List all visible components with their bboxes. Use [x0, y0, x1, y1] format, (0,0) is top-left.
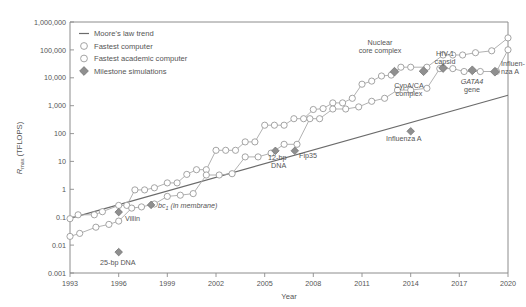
y-axis-title-unit: (TFLOPS) — [15, 121, 24, 158]
annotation-hiv-1-capsid-line2: capsid — [435, 57, 456, 66]
x-tick-2005: 2005 — [257, 279, 273, 288]
y-tick-1000: 1,000 — [48, 101, 66, 110]
x-tick-labels: 1993 1996 1999 2002 2005 2008 2011 2014 … — [62, 279, 516, 288]
annotation-cypa-ca-complex-line2: complex — [396, 89, 423, 98]
annotation-villin: Villin — [125, 214, 140, 223]
y-axis-title: Rmax (TFLOPS) — [15, 121, 25, 174]
x-axis-title: Year — [281, 292, 297, 301]
y-tick-0.1: 0.1 — [56, 213, 66, 222]
annotation-bc1-in-membrane: bc1 (in membrane) — [158, 201, 217, 211]
moores-law-trend-line — [70, 95, 508, 218]
y-tick-100: 100 — [54, 129, 66, 138]
fastest-academic-computer-line — [70, 50, 508, 237]
svg-text:Rmax (TFLOPS): Rmax (TFLOPS) — [15, 121, 25, 174]
legend-marker-fastest-academic-computer — [81, 55, 88, 62]
annotation-gata4-gene-line2: gene — [464, 85, 480, 94]
annotation-influenza-a-right-line2: nza A — [501, 67, 519, 76]
x-tick-2011: 2011 — [354, 279, 369, 288]
y-tick-1000000: 1,000,000 — [34, 18, 66, 27]
y-tick-labels: 1,000,000 100,000 10,000 1,000 100 10 1 … — [34, 18, 66, 278]
chart-figure: 1,000,000 100,000 10,000 1,000 100 10 1 … — [0, 0, 526, 307]
annotation-fip35: Fip35 — [299, 151, 317, 160]
legend-label-fastest-computer: Fastest computer — [94, 42, 153, 51]
x-tick-2002: 2002 — [208, 279, 224, 288]
x-tick-2014: 2014 — [403, 279, 419, 288]
y-axis-title-sub: max — [19, 158, 25, 168]
legend-label-fastest-academic-computer: Fastest academic computer — [94, 54, 188, 63]
rmax-vs-year-chart: 1,000,000 100,000 10,000 1,000 100 10 1 … — [0, 0, 526, 307]
milestone-marker-villin — [115, 208, 123, 216]
annotation-12bp-dna-line2: DNA — [271, 161, 286, 170]
annotation-nuclear-core-complex-line2: core complex — [359, 46, 402, 55]
x-tick-1996: 1996 — [111, 279, 127, 288]
x-tick-marks — [70, 273, 508, 277]
legend-marker-milestone-simulations — [80, 67, 89, 76]
milestone-marker-gata4-gene — [468, 66, 477, 75]
annotation-25bp-dna: 25-bp DNA — [100, 258, 136, 267]
milestone-marker-25bp-dna — [115, 248, 123, 256]
legend-label-moores-law-trend: Moore's law trend — [94, 29, 154, 38]
legend-label-milestone-simulations: Milestone simulations — [94, 67, 167, 76]
y-tick-10: 10 — [58, 157, 66, 166]
x-tick-1993: 1993 — [62, 279, 78, 288]
x-tick-2017: 2017 — [451, 279, 467, 288]
y-tick-100000: 100,000 — [40, 46, 66, 55]
y-tick-1: 1 — [62, 185, 66, 194]
annotation-influenza-a: Influenza A — [386, 134, 422, 143]
chart-legend: Moore's law trend Fastest computer Faste… — [79, 29, 188, 76]
y-tick-10000: 10,000 — [44, 73, 66, 82]
legend-marker-fastest-computer — [81, 43, 88, 50]
y-tick-0.01: 0.01 — [52, 241, 66, 250]
x-tick-1999: 1999 — [159, 279, 175, 288]
milestone-marker-fip35 — [291, 147, 299, 155]
y-tick-0.001: 0.001 — [48, 269, 66, 278]
x-tick-2008: 2008 — [305, 279, 321, 288]
x-tick-2020: 2020 — [500, 279, 516, 288]
